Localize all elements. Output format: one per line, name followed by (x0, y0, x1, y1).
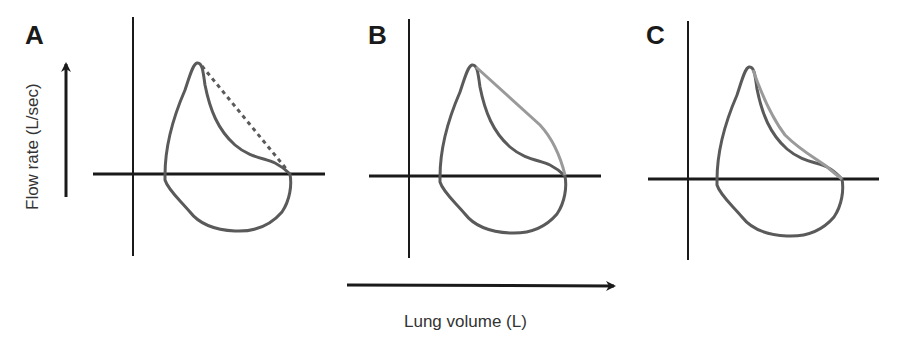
panel-label-c: C (646, 20, 665, 50)
panel-c: C (646, 20, 879, 260)
flow-volume-loop-a (165, 63, 291, 231)
x-axis-label: Lung volume (L) (404, 312, 527, 331)
lung-volume-arrow (347, 285, 614, 286)
panel-b: B (368, 19, 601, 258)
curved-reference-line-c (753, 70, 842, 179)
panel-a: A (25, 17, 325, 256)
flow-volume-loop-c (717, 67, 843, 236)
panel-label-b: B (368, 20, 387, 50)
panel-label-a: A (25, 20, 44, 50)
y-axis-label: Flow rate (L/sec) (23, 83, 42, 210)
flow-volume-figure: A B C Flow rate (L/sec) Lung volume (L) (0, 0, 899, 346)
